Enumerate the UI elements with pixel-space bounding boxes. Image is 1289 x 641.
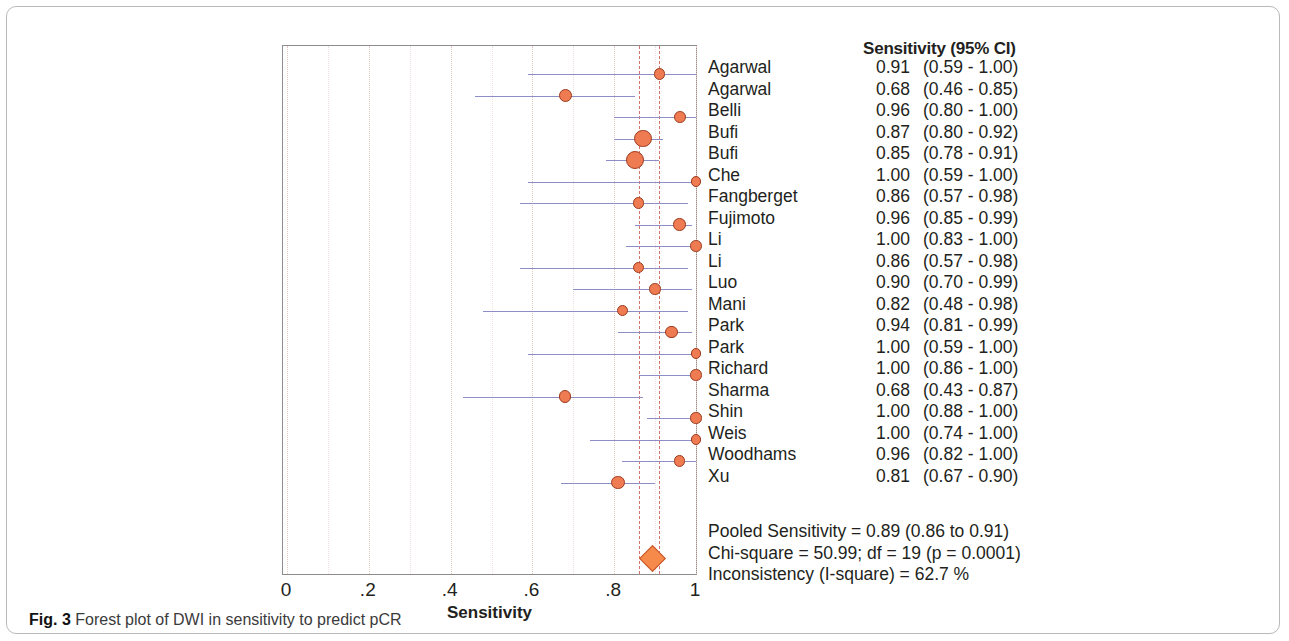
confidence-interval-line [618,332,692,333]
study-confidence-interval: (0.85 - 0.99) [923,208,1018,229]
study-marker [690,369,701,380]
study-confidence-interval: (0.80 - 1.00) [923,100,1018,121]
study-confidence-interval: (0.88 - 1.00) [923,401,1018,422]
figure-caption-text: Forest plot of DWI in sensitivity to pre… [75,611,401,628]
study-estimate: 1.00 [854,358,910,379]
study-confidence-interval: (0.78 - 0.91) [923,143,1018,164]
confidence-interval-line [647,418,696,419]
confidence-interval-line [520,268,688,269]
study-confidence-interval: (0.46 - 0.85) [923,79,1018,100]
table-row: Shin1.00(0.88 - 1.00) [708,401,1228,423]
table-row: Woodhams0.96(0.82 - 1.00) [708,444,1228,466]
study-name: Li [708,251,722,272]
study-marker [673,218,685,230]
table-row: Weis1.00(0.74 - 1.00) [708,423,1228,445]
table-row: Agarwal0.68(0.46 - 0.85) [708,79,1228,101]
table-row: Park0.94(0.81 - 0.99) [708,315,1228,337]
figure-card: 0.2.4.6.81 Sensitivity Sensitivity (95% … [6,6,1280,634]
table-row: Li1.00(0.83 - 1.00) [708,229,1228,251]
table-row: Richard1.00(0.86 - 1.00) [708,358,1228,380]
study-marker [691,348,702,359]
table-row: Belli0.96(0.80 - 1.00) [708,100,1228,122]
plot-axes-frame [282,45,697,575]
table-row: Xu0.81(0.67 - 0.90) [708,466,1228,488]
confidence-interval-line [626,246,696,247]
confidence-interval-line [639,375,696,376]
study-name: Luo [708,272,737,293]
study-estimate: 1.00 [854,165,910,186]
study-estimate: 0.96 [854,208,910,229]
study-estimate: 0.82 [854,294,910,315]
study-marker [691,434,702,445]
study-marker [633,197,644,208]
study-marker [674,111,686,123]
study-name: Shin [708,401,743,422]
gridline-0_4 [451,46,453,574]
confidence-interval-line [483,311,688,312]
study-marker [691,176,702,187]
figure-caption-label: Fig. 3 [29,611,71,628]
gridline-0 [287,46,289,574]
table-row: Che1.00(0.59 - 1.00) [708,165,1228,187]
study-marker [690,412,701,423]
study-name: Agarwal [708,79,771,100]
study-confidence-interval: (0.43 - 0.87) [923,380,1018,401]
study-name: Fujimoto [708,208,775,229]
confidence-interval-line [528,354,696,355]
study-confidence-interval: (0.57 - 0.98) [923,186,1018,207]
summary-inconsistency: Inconsistency (I-square) = 62.7 % [708,564,969,585]
study-estimate: 0.85 [854,143,910,164]
study-confidence-interval: (0.86 - 1.00) [923,358,1018,379]
figure-caption: Fig. 3 Forest plot of DWI in sensitivity… [29,611,402,629]
study-estimate: 0.90 [854,272,910,293]
study-marker [634,130,652,148]
study-name: Woodhams [708,444,796,465]
forest-plot: 0.2.4.6.81 Sensitivity Sensitivity (95% … [276,39,1282,599]
study-marker [654,68,665,79]
study-name: Che [708,165,740,186]
study-marker [649,283,661,295]
summary-chi-square: Chi-square = 50.99; df = 19 (p = 0.0001) [708,543,1021,564]
gridline-0_2 [369,46,371,574]
study-estimate: 1.00 [854,423,910,444]
study-estimate: 0.94 [854,315,910,336]
study-marker [617,305,628,316]
study-confidence-interval: (0.83 - 1.00) [923,229,1018,250]
study-name: Bufi [708,143,738,164]
study-confidence-interval: (0.70 - 0.99) [923,272,1018,293]
study-marker [633,262,644,273]
study-confidence-interval: (0.74 - 1.00) [923,423,1018,444]
study-name: Park [708,315,744,336]
study-name: Agarwal [708,57,771,78]
study-name: Belli [708,100,741,121]
study-estimate: 0.68 [854,380,910,401]
gridline-minor [328,46,330,574]
study-confidence-interval: (0.48 - 0.98) [923,294,1018,315]
study-estimate: 0.68 [854,79,910,100]
study-estimate: 0.81 [854,466,910,487]
table-row: Park1.00(0.59 - 1.00) [708,337,1228,359]
x-tick-label: 0 [266,579,306,601]
table-row: Bufi0.85(0.78 - 0.91) [708,143,1228,165]
table-row: Sharma0.68(0.43 - 0.87) [708,380,1228,402]
study-name: Richard [708,358,768,379]
confidence-interval-line [528,182,696,183]
gridline-minor [410,46,412,574]
study-marker [611,476,625,490]
x-tick-label: .4 [430,579,470,601]
confidence-interval-line [573,289,692,290]
study-name: Xu [708,466,729,487]
study-estimate: 1.00 [854,337,910,358]
confidence-interval-line [561,483,655,484]
study-marker [674,455,686,467]
study-estimate: 0.96 [854,444,910,465]
study-estimate: 0.91 [854,57,910,78]
study-estimate: 1.00 [854,401,910,422]
table-row: Bufi0.87(0.80 - 0.92) [708,122,1228,144]
gridline-1 [696,46,698,574]
summary-pooled-sensitivity: Pooled Sensitivity = 0.89 (0.86 to 0.91) [708,521,1009,542]
table-row: Fangberget0.86(0.57 - 0.98) [708,186,1228,208]
study-marker [665,326,677,338]
study-name: Sharma [708,380,769,401]
study-estimate: 0.87 [854,122,910,143]
